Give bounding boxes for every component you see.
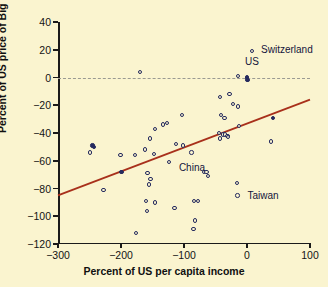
big-mac-scatter-figure: 40200−20−40−60−80−100−120 −300−200−10001…: [0, 0, 328, 287]
data-point: [145, 209, 149, 213]
data-point: [118, 153, 122, 157]
y-tick-label: −100: [27, 210, 51, 222]
data-point: [271, 116, 275, 120]
data-point: [269, 139, 273, 143]
data-point: [218, 136, 222, 140]
data-point: [193, 218, 197, 222]
annotation-switzerland: Switzerland: [261, 44, 313, 55]
data-point: [189, 150, 193, 154]
y-tick-label: −20: [33, 99, 51, 111]
data-point: [148, 136, 152, 140]
x-tick-label: −100: [172, 249, 196, 261]
x-tick-label: −200: [109, 249, 133, 261]
data-point: [227, 92, 231, 96]
plot-area: 40200−20−40−60−80−100−120 −300−200−10001…: [58, 22, 310, 244]
data-point: [88, 150, 92, 154]
data-point: [191, 227, 195, 231]
y-tick-label: −40: [33, 127, 51, 139]
data-point: [119, 170, 123, 174]
data-point: [153, 200, 157, 204]
y-tick-label: −60: [33, 155, 51, 167]
data-point: [143, 147, 147, 151]
data-point: [152, 152, 156, 156]
data-point-taiwan: [235, 193, 239, 197]
x-axis-title: Percent of US per capita income: [0, 265, 328, 277]
data-point: [181, 143, 185, 147]
data-point: [147, 182, 151, 186]
annotation-taiwan: Taiwan: [248, 190, 279, 201]
y-tick-label: −80: [33, 183, 51, 195]
y-axis-title: Percent of US price of Big Mac: [0, 0, 8, 133]
data-point: [148, 177, 152, 181]
y-tick-label: 0: [45, 72, 51, 84]
annotation-us: US: [245, 56, 259, 67]
annotation-china: China: [179, 162, 205, 173]
data-point: [101, 188, 105, 192]
x-tick-label: 100: [301, 249, 319, 261]
regression-line: [58, 22, 310, 244]
data-point: [222, 116, 226, 120]
x-tick-label: −300: [46, 249, 70, 261]
data-point: [172, 206, 176, 210]
x-tick-label: 0: [244, 249, 250, 261]
y-tick-label: 20: [39, 44, 51, 56]
y-tick-label: 40: [39, 16, 51, 28]
